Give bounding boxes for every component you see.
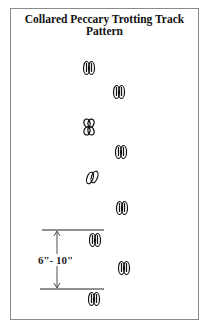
hoof-print-icon	[88, 231, 102, 249]
hoof-print-icon	[112, 83, 126, 101]
hoof-print-icon	[82, 59, 96, 77]
hoof-print-icon	[82, 118, 96, 136]
measurement-label: 6"- 10"	[37, 254, 74, 266]
hoof-print-icon	[85, 168, 99, 186]
hoof-print-icon	[114, 143, 128, 161]
hoof-print-icon	[117, 259, 131, 277]
measurement-annotation	[0, 0, 209, 331]
hoof-print-icon	[115, 199, 129, 217]
hoof-print-icon	[87, 290, 101, 308]
